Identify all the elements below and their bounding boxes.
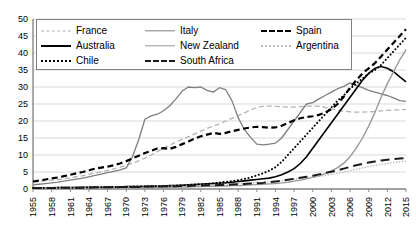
chart-container: 0510152025303540455019551958196119641967…	[0, 0, 416, 241]
legend-item-argentina[interactable]: Argentina	[261, 38, 361, 53]
x-axis-tick-label: 1988	[233, 197, 243, 217]
legend-label: Spain	[296, 26, 322, 36]
legend-label: France	[76, 26, 107, 36]
legend-swatch-icon	[41, 56, 71, 65]
legend-item-chile[interactable]: Chile	[41, 53, 145, 68]
y-axis-tick-label: 5	[23, 167, 28, 177]
x-axis-tick-label: 1985	[215, 197, 225, 217]
legend-item-south-africa[interactable]: South Africa	[145, 53, 261, 68]
series-line-france	[33, 106, 406, 183]
y-axis-tick-label: 30	[18, 82, 28, 92]
x-axis-tick-label: 2009	[364, 197, 374, 217]
legend-item-france[interactable]: France	[41, 23, 145, 38]
legend-label: Italy	[180, 26, 198, 36]
y-axis-tick-label: 25	[18, 99, 28, 109]
x-axis-tick-label: 1961	[66, 197, 76, 217]
legend-label: Australia	[76, 41, 115, 51]
y-axis-tick-label: 20	[18, 116, 28, 126]
x-axis-tick-label: 2012	[383, 197, 393, 217]
x-axis-tick-label: 1982	[196, 197, 206, 217]
legend-label: South Africa	[180, 56, 234, 66]
legend-swatch-icon	[261, 26, 291, 35]
x-axis-tick-label: 1997	[289, 197, 299, 217]
y-axis-tick-label: 50	[18, 14, 28, 24]
legend-swatch-icon	[41, 41, 71, 50]
x-axis-tick-label: 2015	[401, 197, 411, 217]
x-axis-tick-label: 1958	[47, 197, 57, 217]
legend-swatch-icon	[145, 41, 175, 50]
x-axis-tick-label: 2000	[308, 197, 318, 217]
x-axis-tick-label: 1973	[140, 197, 150, 217]
legend-label: Argentina	[296, 41, 339, 51]
y-axis-tick-label: 10	[18, 150, 28, 160]
x-axis-tick-label: 1964	[84, 197, 94, 217]
legend-item-spain[interactable]: Spain	[261, 23, 361, 38]
y-axis-tick-label: 0	[23, 184, 28, 194]
x-axis-tick-label: 1967	[103, 197, 113, 217]
legend-swatch-icon	[41, 26, 71, 35]
x-axis-tick-label: 2003	[327, 197, 337, 217]
legend-label: Chile	[76, 56, 99, 66]
legend-swatch-icon	[261, 41, 291, 50]
x-axis-tick-label: 1970	[121, 197, 131, 217]
y-axis-tick-label: 45	[18, 31, 28, 41]
legend-label: New Zealand	[180, 41, 239, 51]
x-axis-tick-label: 1994	[271, 197, 281, 217]
x-axis-tick-label: 2006	[345, 197, 355, 217]
x-axis-tick-label: 1979	[177, 197, 187, 217]
y-axis-tick-label: 40	[18, 48, 28, 58]
x-axis-tick-label: 1976	[159, 197, 169, 217]
y-axis-tick-label: 35	[18, 65, 28, 75]
x-axis-tick-label: 1955	[28, 197, 38, 217]
y-axis-tick-label: 15	[18, 133, 28, 143]
legend-swatch-icon	[145, 56, 175, 65]
legend-item-italy[interactable]: Italy	[145, 23, 261, 38]
legend-swatch-icon	[145, 26, 175, 35]
legend-item-new-zealand[interactable]: New Zealand	[145, 38, 261, 53]
x-axis-tick-label: 1991	[252, 197, 262, 217]
legend-item-australia[interactable]: Australia	[41, 38, 145, 53]
chart-legend: FranceItalySpainAustraliaNew ZealandArge…	[36, 19, 352, 70]
